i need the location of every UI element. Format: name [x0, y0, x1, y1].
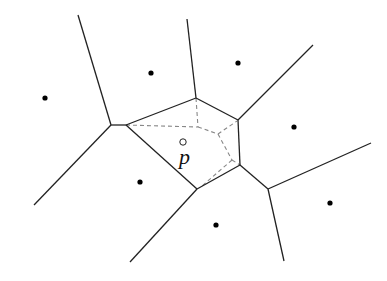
- site-point: [213, 222, 218, 227]
- dashed-edge: [126, 125, 198, 127]
- voronoi-edge: [187, 19, 196, 98]
- query-point-label: p: [179, 146, 190, 168]
- dashed-edge: [202, 160, 232, 186]
- voronoi-edge: [78, 15, 111, 125]
- voronoi-edge: [197, 165, 240, 189]
- voronoi-edge: [268, 189, 284, 261]
- site-point: [42, 95, 47, 100]
- site-point: [291, 124, 296, 129]
- voronoi-edge: [240, 165, 268, 189]
- voronoi-edge: [238, 45, 313, 120]
- voronoi-edge: [126, 98, 196, 125]
- dashed-edge: [232, 160, 240, 165]
- voronoi-edge: [130, 189, 197, 262]
- site-point: [148, 70, 153, 75]
- voronoi-edge: [268, 143, 371, 189]
- voronoi-diagram: p: [0, 0, 387, 281]
- voronoi-edge: [196, 98, 238, 120]
- dashed-edge: [196, 98, 198, 127]
- dashed-edge: [198, 127, 218, 134]
- site-point: [235, 60, 240, 65]
- voronoi-edge: [34, 125, 111, 205]
- site-point: [137, 179, 142, 184]
- dashed-edge: [218, 121, 237, 134]
- diagram-canvas: [0, 0, 387, 281]
- site-point: [327, 200, 332, 205]
- dashed-edge: [218, 134, 232, 160]
- voronoi-edge: [238, 120, 240, 165]
